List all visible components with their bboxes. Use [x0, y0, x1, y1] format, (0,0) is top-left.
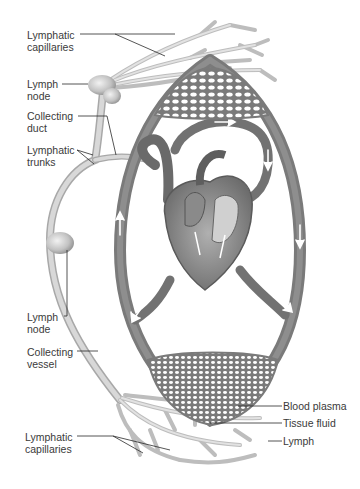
label-lymph-node-bottom: Lymph node — [27, 311, 58, 335]
label-lymphatic-capillaries-top: Lymphatic capillaries — [27, 29, 74, 53]
label-blood-plasma: Blood plasma — [283, 400, 347, 412]
label-lymphatic-capillaries-bottom: Lymphatic capillaries — [25, 431, 72, 455]
label-collecting-vessel: Collecting vessel — [27, 346, 73, 370]
label-collecting-duct: Collecting duct — [27, 110, 73, 134]
label-lymph-node-top: Lymph node — [27, 78, 58, 102]
circulation-diagram — [0, 0, 360, 489]
label-tissue-fluid: Tissue fluid — [283, 417, 336, 429]
label-lymph: Lymph — [283, 435, 314, 447]
lymph-node-bottom-shape — [46, 232, 74, 254]
label-lymphatic-trunks: Lymphatic trunks — [27, 144, 74, 168]
